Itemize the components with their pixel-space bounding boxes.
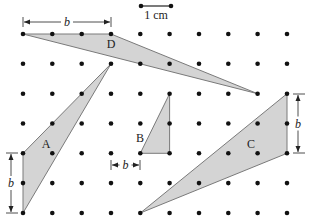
grid-dot	[255, 211, 260, 216]
grid-dot	[138, 62, 143, 67]
grid-dot	[50, 121, 55, 126]
grid-dot	[255, 121, 260, 126]
grid-dot	[255, 62, 260, 67]
dot-grid-diagram: bbbb DABC 1 cm	[0, 0, 309, 223]
base-marker-a: b	[6, 153, 18, 213]
base-marker-d: b	[23, 15, 111, 29]
triangle-a	[23, 64, 111, 213]
scale-bar-end-dot	[139, 4, 144, 9]
grid-dot	[197, 211, 202, 216]
grid-dot	[226, 62, 231, 67]
grid-dot	[226, 181, 231, 186]
base-marker-b: b	[111, 158, 140, 172]
grid-dot	[109, 121, 114, 126]
grid-dot	[255, 151, 260, 156]
grid-dot	[226, 32, 231, 37]
grid-dot	[226, 121, 231, 126]
grid-dot	[197, 151, 202, 156]
grid-dot	[79, 91, 84, 96]
base-marker-c: b	[293, 94, 305, 153]
triangles-layer	[23, 34, 287, 213]
triangle-label-b: B	[136, 131, 144, 145]
grid-dot	[285, 32, 290, 37]
grid-dot	[285, 181, 290, 186]
base-label: b	[64, 15, 70, 29]
triangle-label-a: A	[42, 137, 51, 151]
grid-dot	[79, 32, 84, 37]
grid-dot	[138, 181, 143, 186]
grid-dot	[79, 181, 84, 186]
grid-dot	[285, 121, 290, 126]
grid-dot	[197, 121, 202, 126]
grid-dot	[167, 211, 172, 216]
grid-dot	[79, 151, 84, 156]
scale-bar-label: 1 cm	[144, 8, 168, 22]
grid-dot	[167, 91, 172, 96]
triangle-label-c: C	[247, 137, 255, 151]
grid-dot	[21, 32, 26, 37]
grid-dot	[197, 32, 202, 37]
grid-dot	[138, 121, 143, 126]
grid-dot	[167, 181, 172, 186]
triangle-b	[140, 94, 169, 154]
grid-dot	[21, 91, 26, 96]
grid-dot	[21, 151, 26, 156]
grid-dot	[109, 211, 114, 216]
grid-dot	[21, 181, 26, 186]
grid-dot	[255, 181, 260, 186]
grid-dot	[285, 91, 290, 96]
grid-dot	[197, 181, 202, 186]
grid-dot	[167, 121, 172, 126]
grid-dot	[21, 121, 26, 126]
grid-dot	[109, 32, 114, 37]
grid-dot	[109, 151, 114, 156]
grid-dot	[79, 62, 84, 67]
grid-dot	[226, 91, 231, 96]
grid-dot	[50, 91, 55, 96]
base-label: b	[295, 117, 301, 131]
grid-dot	[50, 211, 55, 216]
grid-dot	[50, 62, 55, 67]
grid-dot	[79, 121, 84, 126]
grid-dot	[255, 32, 260, 37]
grid-dot	[138, 91, 143, 96]
grid-dot	[138, 151, 143, 156]
grid-dot	[138, 211, 143, 216]
grid-dot	[226, 211, 231, 216]
base-label: b	[123, 158, 129, 172]
grid-dot	[21, 211, 26, 216]
grid-dot	[50, 32, 55, 37]
grid-dot	[255, 91, 260, 96]
grid-dot	[197, 91, 202, 96]
scale-bar: 1 cm	[139, 4, 174, 22]
triangle-label-d: D	[107, 37, 116, 51]
grid-dot	[285, 62, 290, 67]
grid-dot	[138, 32, 143, 37]
grid-dot	[226, 151, 231, 156]
grid-dot	[109, 62, 114, 67]
grid-dot	[285, 151, 290, 156]
grid-dot	[167, 32, 172, 37]
grid-dot	[109, 181, 114, 186]
grid-dot	[21, 62, 26, 67]
grid-dot	[50, 181, 55, 186]
grid-dot	[167, 62, 172, 67]
grid-dot	[167, 151, 172, 156]
diagram-canvas: bbbb DABC 1 cm	[0, 0, 309, 223]
grid-dot	[285, 211, 290, 216]
scale-bar-end-dot	[169, 4, 174, 9]
grid-dot	[50, 151, 55, 156]
grid-dot	[79, 211, 84, 216]
grid-dot	[197, 62, 202, 67]
grid-dot	[109, 91, 114, 96]
base-label: b	[8, 176, 14, 190]
